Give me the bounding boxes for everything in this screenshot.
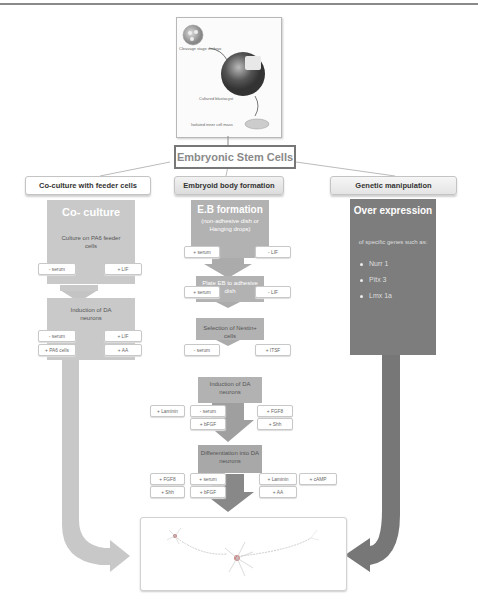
condition-chip: + FGF8 [150, 473, 185, 485]
induction-text: Induction of DA neurons [61, 306, 121, 322]
condition-chip: + bFGF [190, 486, 226, 498]
condition-chip: + AA [259, 486, 297, 498]
differentiation-box: Differentiation into DA neurons [198, 445, 262, 473]
bullet-icon [360, 263, 363, 266]
over-expression-title: Over expression [354, 205, 432, 216]
selection-text: Selection of Nestin+ cells [197, 324, 263, 340]
condition-chip: - serum [38, 263, 76, 275]
condition-chip: + bFGF [190, 418, 226, 430]
gene-list: Nurr 1 Pitx 3 Lmx 1a [350, 260, 436, 308]
condition-chip: + LIF [104, 263, 142, 275]
coculture-step-text: Culture on PA6 feeder cells [56, 234, 126, 250]
condition-chip: + ITSF [255, 344, 291, 356]
condition-chip: - serum [190, 405, 226, 417]
condition-chip: - LIF [255, 246, 291, 258]
condition-chip: + Laminin [259, 473, 297, 485]
condition-chip: + PA6 cells [38, 344, 76, 356]
gene-item: Pitx 3 [360, 276, 436, 283]
gene-item: Nurr 1 [360, 260, 436, 267]
eb-title: E.B formation [197, 204, 263, 215]
condition-chip: + FGF8 [257, 405, 293, 417]
condition-chip: + Shh [150, 486, 185, 498]
induction-text: Induction of DA neurons [200, 380, 260, 396]
condition-chip: + LIF [104, 330, 142, 342]
condition-chip: + AA [104, 344, 142, 356]
gene-item: Lmx 1a [360, 292, 436, 299]
selection-box: Selection of Nestin+ cells [196, 318, 264, 340]
condition-chip: - serum [38, 330, 76, 342]
differentiation-text: Differentiation into DA neurons [199, 449, 261, 465]
induction-box-eb: Induction of DA neurons [198, 377, 262, 403]
bullet-icon [360, 295, 363, 298]
coculture-title: Co- culture [62, 206, 120, 218]
over-expression-description: of specific genes such as: [358, 238, 428, 246]
condition-chip: - serum [184, 344, 220, 356]
condition-chip: + cAMP [299, 473, 337, 485]
over-expression-box: Over expression of specific genes such a… [350, 199, 436, 355]
condition-chip: + serum [190, 473, 226, 485]
condition-chip: + serum [184, 286, 220, 298]
bullet-icon [360, 279, 363, 282]
condition-chip: + Shh [257, 418, 293, 430]
condition-chip: + serum [184, 246, 220, 258]
neuron-outcome-box [140, 517, 347, 591]
neuron-icon [141, 518, 346, 590]
condition-chip: - LIF [255, 286, 291, 298]
eb-subtitle: (non-adhesive dish or Hanging drops) [197, 217, 263, 233]
condition-chip: + Laminin [150, 405, 185, 417]
